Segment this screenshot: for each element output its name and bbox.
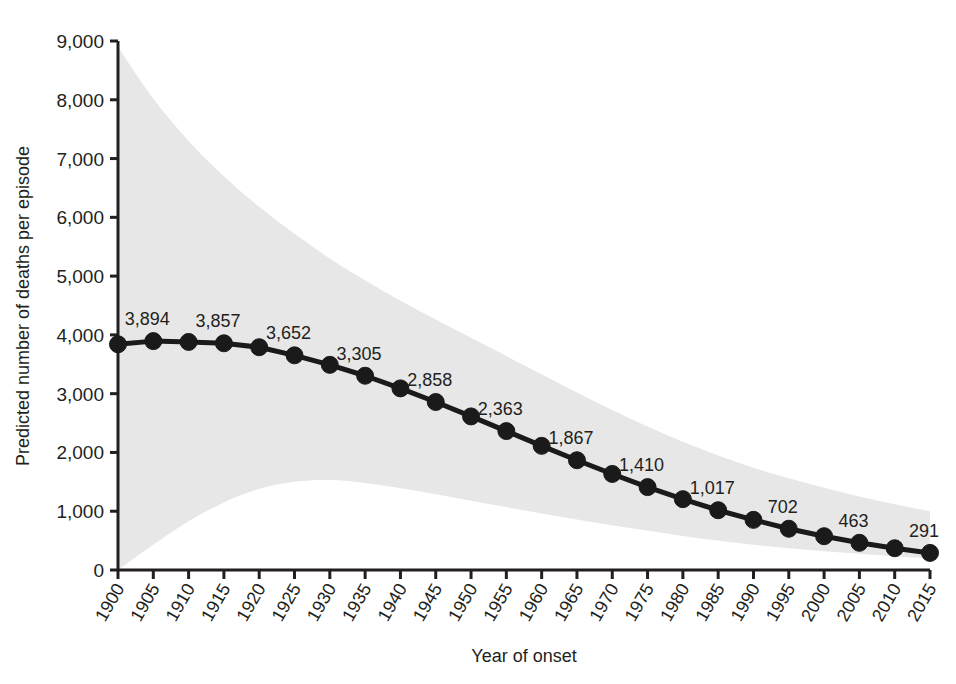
data-point-label: 702 bbox=[768, 497, 798, 517]
data-point-label: 2,858 bbox=[407, 370, 452, 390]
chart-container: 01,0002,0003,0004,0005,0006,0007,0008,00… bbox=[0, 0, 956, 684]
data-point-marker bbox=[215, 335, 232, 352]
data-point-label: 3,894 bbox=[125, 309, 170, 329]
y-tick-label: 0 bbox=[93, 560, 104, 581]
data-point-marker bbox=[851, 534, 868, 551]
data-point-marker bbox=[710, 502, 727, 519]
data-point-marker bbox=[427, 394, 444, 411]
y-tick-label: 8,000 bbox=[56, 90, 104, 111]
data-point-marker bbox=[498, 423, 515, 440]
data-point-marker bbox=[639, 479, 656, 496]
data-point-label: 2,363 bbox=[478, 399, 523, 419]
data-point-marker bbox=[745, 511, 762, 528]
data-point-label: 1,017 bbox=[690, 478, 735, 498]
y-tick-label: 6,000 bbox=[56, 207, 104, 228]
chart-figure: 01,0002,0003,0004,0005,0006,0007,0008,00… bbox=[0, 0, 956, 684]
x-axis-title: Year of onset bbox=[471, 646, 576, 666]
y-tick-label: 2,000 bbox=[56, 442, 104, 463]
y-tick-label: 9,000 bbox=[56, 31, 104, 52]
data-point-label: 1,867 bbox=[548, 428, 593, 448]
y-tick-label: 1,000 bbox=[56, 501, 104, 522]
data-point-marker bbox=[922, 544, 939, 561]
data-point-label: 1,410 bbox=[619, 455, 664, 475]
data-point-label: 463 bbox=[838, 511, 868, 531]
y-axis-title: Predicted number of deaths per episode bbox=[13, 146, 33, 466]
data-point-marker bbox=[286, 347, 303, 364]
data-point-marker bbox=[780, 520, 797, 537]
data-point-marker bbox=[357, 367, 374, 384]
data-point-label: 3,305 bbox=[337, 344, 382, 364]
data-point-label: 3,652 bbox=[266, 323, 311, 343]
y-tick-label: 4,000 bbox=[56, 325, 104, 346]
data-point-label: 291 bbox=[909, 521, 939, 541]
data-point-marker bbox=[886, 540, 903, 557]
data-point-marker bbox=[816, 528, 833, 545]
data-point-marker bbox=[110, 336, 127, 353]
data-point-marker bbox=[180, 333, 197, 350]
y-tick-label: 7,000 bbox=[56, 149, 104, 170]
data-point-marker bbox=[568, 452, 585, 469]
data-point-label: 3,857 bbox=[195, 311, 240, 331]
y-tick-label: 3,000 bbox=[56, 384, 104, 405]
y-tick-label: 5,000 bbox=[56, 266, 104, 287]
data-point-marker bbox=[145, 333, 162, 350]
